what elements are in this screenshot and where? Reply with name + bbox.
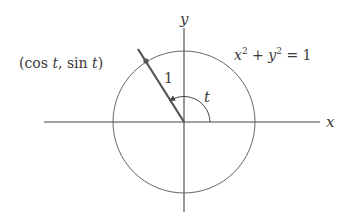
angle-label: t — [204, 88, 211, 106]
unit-circle-diagram: y x (cos t, sin t) 1 t x2 + y2 = 1 — [0, 0, 354, 212]
y-axis-label: y — [179, 10, 189, 28]
circle-equation: x2 + y2 = 1 — [234, 46, 311, 63]
radius-label: 1 — [164, 70, 173, 86]
point-label: (cos t, sin t) — [19, 55, 103, 71]
point-on-circle — [143, 58, 148, 63]
x-axis-label: x — [326, 113, 335, 131]
